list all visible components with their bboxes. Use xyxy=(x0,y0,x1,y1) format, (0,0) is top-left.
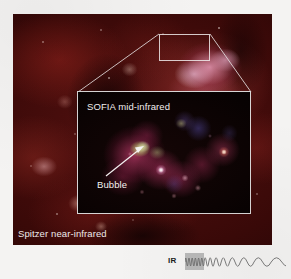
spitzer-panel-label: Spitzer near-infrared xyxy=(18,228,107,239)
sofia-mid-infrared-inset: SOFIA mid-infrared Bubble xyxy=(77,91,251,214)
ir-legend-label: IR xyxy=(168,256,176,265)
bubble-annotation-label: Bubble xyxy=(97,179,127,190)
source-region-box xyxy=(159,34,210,61)
ir-wave-icon xyxy=(185,250,286,274)
figure-root: Spitzer near-infrared SOFIA mid-infrared… xyxy=(0,0,291,279)
infrared-legend: IR xyxy=(168,250,286,274)
sofia-panel-label: SOFIA mid-infrared xyxy=(87,101,170,112)
